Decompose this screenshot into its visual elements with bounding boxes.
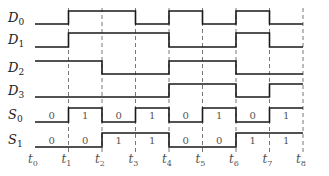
bit-label: 1 bbox=[283, 135, 289, 146]
signal-label-d0: D0 bbox=[7, 10, 24, 27]
timing-diagram: D0D1D2D3S0S1 0101010100110011 t0t1t2t3t4… bbox=[0, 0, 329, 176]
bit-label: 1 bbox=[149, 110, 155, 121]
bit-label: 0 bbox=[49, 110, 55, 121]
time-gridlines bbox=[69, 8, 304, 152]
bit-label: 0 bbox=[183, 110, 189, 121]
bit-label: 1 bbox=[283, 110, 289, 121]
bit-label: 1 bbox=[149, 135, 155, 146]
time-label-t6: t6 bbox=[229, 152, 239, 168]
bit-label: 1 bbox=[116, 135, 122, 146]
time-label-t2: t2 bbox=[95, 152, 105, 168]
waveform-s1 bbox=[35, 133, 303, 147]
time-axis-labels: t0t1t2t3t4t5t6t7t8 bbox=[28, 152, 306, 168]
bit-label: 1 bbox=[250, 135, 256, 146]
waveform-d0 bbox=[35, 11, 303, 24]
signal-label-d3: D3 bbox=[7, 83, 24, 100]
time-label-t3: t3 bbox=[129, 152, 139, 168]
waveform-s0 bbox=[35, 108, 303, 122]
bit-label: 0 bbox=[250, 110, 256, 121]
time-label-t4: t4 bbox=[162, 152, 172, 168]
signal-label-d2: D2 bbox=[7, 60, 24, 77]
bit-label: 0 bbox=[216, 135, 222, 146]
time-label-t7: t7 bbox=[263, 152, 273, 168]
time-label-t1: t1 bbox=[62, 152, 72, 168]
bit-label: 0 bbox=[183, 135, 189, 146]
bit-label: 1 bbox=[216, 110, 222, 121]
time-label-t5: t5 bbox=[196, 152, 206, 168]
signal-label-s0: S0 bbox=[8, 107, 23, 124]
signal-label-d1: D1 bbox=[7, 32, 24, 49]
waveform-d2 bbox=[35, 61, 303, 74]
waveform-d3 bbox=[35, 84, 303, 97]
signal-labels: D0D1D2D3S0S1 bbox=[7, 10, 24, 150]
bit-label: 0 bbox=[116, 110, 122, 121]
bit-label: 1 bbox=[82, 110, 88, 121]
time-label-t8: t8 bbox=[296, 152, 306, 168]
bit-label: 0 bbox=[82, 135, 88, 146]
time-label-t0: t0 bbox=[28, 152, 38, 168]
bit-label: 0 bbox=[49, 135, 55, 146]
signal-label-s1: S1 bbox=[8, 132, 23, 149]
waveform-d1 bbox=[35, 33, 303, 47]
